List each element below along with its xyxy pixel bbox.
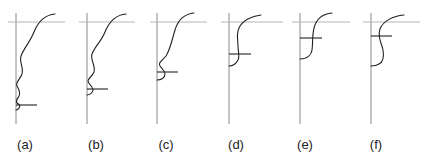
- profile-diagram: [0, 0, 426, 159]
- panel-b: [79, 13, 135, 124]
- panel-label-a: (a): [5, 137, 45, 152]
- panel-c: [150, 13, 207, 124]
- panel-label-b: (b): [76, 137, 116, 152]
- profile-curve: [229, 15, 261, 66]
- panel-a: [8, 13, 65, 124]
- profile-curve: [300, 13, 332, 59]
- panel-d: [221, 13, 283, 124]
- profile-curve: [371, 15, 404, 66]
- panel-label-d: (d): [216, 137, 256, 152]
- profile-curve: [87, 14, 126, 95]
- panel-f: [363, 13, 420, 124]
- panel-label-e: (e): [285, 137, 325, 152]
- panel-label-f: (f): [356, 137, 396, 152]
- panel-label-c: (c): [146, 137, 186, 152]
- panel-e: [292, 13, 350, 124]
- profile-curve: [157, 13, 194, 80]
- profile-curve: [16, 14, 55, 110]
